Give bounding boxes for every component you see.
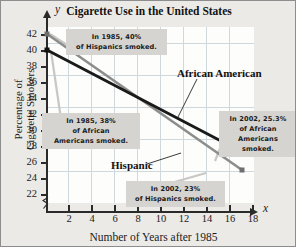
callout-line: of African [46,126,136,136]
african-american-pointer [177,79,197,119]
chart-figure: Cigarette Use in the United States 42 40… [0,0,296,247]
series-label-hispanic: Hispanic [111,159,153,171]
callout-line: In 1985, 38% [46,116,136,126]
callout-hispanic-1985: In 1985, 40% of Hispanics smoked. [66,29,167,55]
callout-line: Americans smoked. [223,134,293,154]
series-label-african-american: African American [177,67,262,79]
callout-line: In 2002, 25.3% [223,114,293,124]
callout-line: of Hispanics smoked. [130,194,221,204]
series-point-african-american-start [45,48,50,53]
callout-line: In 1985, 40% [70,32,163,42]
callout-line: of African [223,124,293,134]
callout-african-american-2002: In 2002, 25.3% of African Americans smok… [219,111,296,157]
callout-line: of Hispanics smoked. [70,42,163,52]
callout-african-american-1985: In 1985, 38% of African Americans smoked… [42,113,140,149]
callout-hispanic-2002: In 2002, 23% of Hispanics smoked. [126,181,225,207]
callout-line: Americans smoked. [46,136,136,146]
callout-line: In 2002, 23% [130,184,221,194]
series-point-hispanic-end [240,168,245,173]
series-point-hispanic-start [45,32,50,37]
